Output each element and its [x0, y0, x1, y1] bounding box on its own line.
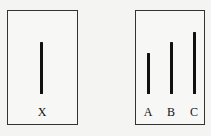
- label-a: A: [141, 106, 155, 118]
- comparison-line-c: [193, 32, 196, 94]
- comparison-card: A B C: [135, 10, 205, 125]
- label-c: C: [187, 106, 201, 118]
- reference-line-x: [40, 42, 43, 94]
- reference-card: X: [7, 10, 78, 125]
- label-b: B: [164, 106, 178, 118]
- comparison-line-a: [147, 53, 150, 94]
- label-x: X: [35, 106, 49, 118]
- comparison-line-b: [170, 42, 173, 94]
